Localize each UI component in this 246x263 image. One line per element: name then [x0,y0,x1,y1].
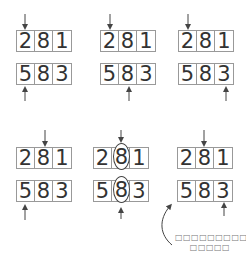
matched-digit-bottom: 8 [113,180,130,200]
panel-4-top-array: 2 8 1 [16,147,72,169]
panel-1-bottom-array: 5 8 3 [16,63,72,85]
cell: 3 [53,64,71,84]
cell: 3 [215,64,233,84]
cell: 5 [101,64,119,84]
panel-6-bottom-array: 5 8 3 [177,180,233,202]
cell: 8 [35,181,53,201]
cell: 8 [35,148,53,168]
annotation-text: □□□□□□□□□□□ □□□□□ [175,233,245,253]
panel-6-top-array: 2 8 1 [177,147,233,169]
cell: 5 [178,181,196,201]
panel-2-bottom-array: 5 8 3 [100,63,156,85]
cell: 1 [137,31,155,51]
annotation-line-2: □□□□□ [175,243,245,253]
cell: 8 [35,31,53,51]
panel-4-bottom-array: 5 8 3 [16,180,72,202]
panel-2-top-array: 2 8 1 [100,30,156,52]
panel-3-bottom-array: 5 8 3 [178,63,234,85]
cell: 5 [179,64,197,84]
cell: 1 [53,31,71,51]
cell: 1 [215,31,233,51]
cell: 2 [179,31,197,51]
cell: 2 [178,148,196,168]
cell: 8 [119,31,137,51]
cell: 8 [119,64,137,84]
cell: 8 [196,181,214,201]
cell: 1 [53,148,71,168]
cell: 5 [17,64,35,84]
cell: 8 [197,64,215,84]
cell: 3 [130,181,148,201]
cell: 8 [35,64,53,84]
cell: 3 [214,181,232,201]
panel-1-top-array: 2 8 1 [16,30,72,52]
cell: 2 [17,31,35,51]
cell: 2 [17,148,35,168]
cell: 5 [17,181,35,201]
panel-3-top-array: 2 8 1 [178,30,234,52]
cell: 1 [214,148,232,168]
annotation-line-1: □□□□□□□□□□□ [175,233,245,243]
cell: 5 [94,181,112,201]
cell: 2 [101,31,119,51]
matched-digit-top: 8 [113,147,130,167]
cell: 3 [53,181,71,201]
cell: 2 [94,148,112,168]
cell: 3 [137,64,155,84]
cell: 1 [130,148,148,168]
cell: 8 [197,31,215,51]
cell: 8 [196,148,214,168]
